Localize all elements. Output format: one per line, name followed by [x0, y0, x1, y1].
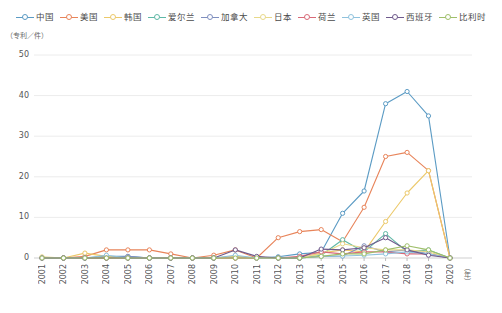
data-point[interactable] [384, 248, 388, 252]
data-point[interactable] [169, 252, 173, 256]
data-point[interactable] [104, 248, 108, 252]
x-axis-tick-label: 2011 [253, 264, 262, 284]
data-point[interactable] [384, 232, 388, 236]
data-point[interactable] [40, 256, 44, 260]
series-中国 [40, 89, 452, 260]
series-line [42, 171, 450, 258]
data-point[interactable] [362, 189, 366, 193]
data-point[interactable] [233, 248, 237, 252]
line-chart: 中国美国韩国爱尔兰加拿大日本荷兰英国西班牙比利时 （专利／件） （年） 0102… [0, 0, 502, 313]
data-point[interactable] [319, 228, 323, 232]
data-point[interactable] [448, 256, 452, 260]
data-point[interactable] [405, 248, 409, 252]
data-point[interactable] [298, 230, 302, 234]
x-axis-tick-label: 2007 [167, 264, 176, 284]
data-point[interactable] [83, 251, 87, 255]
data-point[interactable] [426, 248, 430, 252]
x-axis-tick-label: 2018 [403, 264, 412, 284]
data-point[interactable] [405, 89, 409, 93]
data-point[interactable] [426, 114, 430, 118]
x-axis-tick-label: 2006 [145, 264, 154, 284]
data-point[interactable] [341, 242, 345, 246]
data-point[interactable] [341, 252, 345, 256]
series-美国 [40, 150, 452, 260]
x-axis-tick-label: 2003 [81, 264, 90, 284]
data-point[interactable] [384, 102, 388, 106]
data-point[interactable] [126, 248, 130, 252]
series-line [42, 238, 450, 258]
data-point[interactable] [61, 256, 65, 260]
data-point[interactable] [83, 256, 87, 260]
data-point[interactable] [190, 256, 194, 260]
x-axis-tick-label: 2004 [102, 264, 111, 284]
data-point[interactable] [104, 256, 108, 260]
data-point[interactable] [319, 254, 323, 258]
x-axis-tick-label: 2014 [317, 264, 326, 284]
data-point[interactable] [255, 256, 259, 260]
y-axis-tick-label: 10 [5, 212, 29, 221]
y-axis-tick-label: 50 [5, 50, 29, 59]
x-axis-tick-label: 2019 [425, 264, 434, 284]
data-point[interactable] [169, 256, 173, 260]
y-axis-tick-label: 40 [5, 91, 29, 100]
x-axis-tick-label: 2013 [296, 264, 305, 284]
x-axis-tick-label: 2012 [274, 264, 283, 284]
data-point[interactable] [276, 256, 280, 260]
y-axis-tick-label: 0 [5, 253, 29, 262]
x-axis-tick-label: 2001 [38, 264, 47, 284]
y-axis-tick-label: 20 [5, 172, 29, 181]
data-point[interactable] [426, 253, 430, 257]
x-axis-tick-label: 2009 [210, 264, 219, 284]
plot-area: 0102030405020012002200320042005200620072… [0, 0, 502, 313]
x-axis-tick-label: 2002 [59, 264, 68, 284]
data-point[interactable] [212, 256, 216, 260]
data-point[interactable] [405, 244, 409, 248]
x-axis-tick-label: 2010 [231, 264, 240, 284]
data-point[interactable] [341, 238, 345, 242]
x-axis-tick-label: 2015 [339, 264, 348, 284]
data-point[interactable] [276, 236, 280, 240]
data-point[interactable] [362, 205, 366, 209]
series-line [42, 92, 450, 259]
data-point[interactable] [384, 154, 388, 158]
data-point[interactable] [405, 150, 409, 154]
data-point[interactable] [362, 246, 366, 250]
series-line [42, 152, 450, 258]
data-point[interactable] [405, 191, 409, 195]
data-point[interactable] [341, 211, 345, 215]
x-axis-tick-label: 2005 [124, 264, 133, 284]
data-point[interactable] [126, 256, 130, 260]
data-point[interactable] [147, 256, 151, 260]
data-point[interactable] [319, 247, 323, 251]
data-point[interactable] [426, 169, 430, 173]
series-韩国 [40, 169, 452, 261]
x-axis-tick-label: 2017 [382, 264, 391, 284]
x-axis-tick-label: 2020 [446, 264, 455, 284]
data-point[interactable] [362, 252, 366, 256]
data-point[interactable] [384, 236, 388, 240]
x-axis-tick-label: 2008 [188, 264, 197, 284]
data-point[interactable] [233, 256, 237, 260]
x-axis-tick-label: 2016 [360, 264, 369, 284]
data-point[interactable] [298, 256, 302, 260]
data-point[interactable] [384, 219, 388, 223]
data-point[interactable] [147, 248, 151, 252]
gridlines [34, 55, 472, 258]
y-axis-tick-label: 30 [5, 131, 29, 140]
